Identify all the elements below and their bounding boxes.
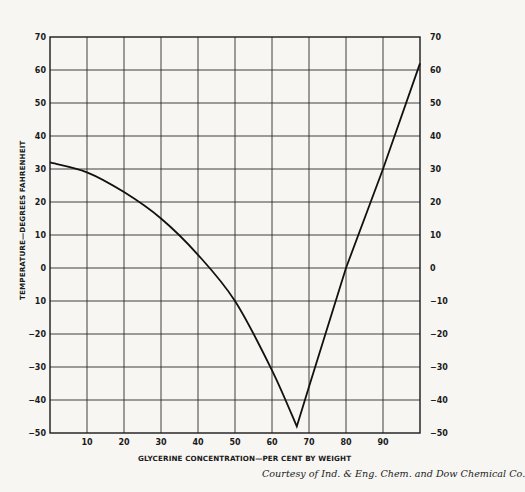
source-credit: Courtesy of Ind. & Eng. Chem. and Dow Ch… <box>262 468 525 479</box>
y-tick-label-left: 60 <box>35 66 47 75</box>
x-tick-label: 10 <box>81 438 93 447</box>
y-tick-label-left: 30 <box>35 165 47 174</box>
x-tick-label: 60 <box>266 438 278 447</box>
y-tick-label-left: −20 <box>28 330 46 339</box>
y-tick-label-right: 50 <box>430 99 442 108</box>
x-tick-label: 50 <box>229 438 241 447</box>
y-tick-label-left: 10 <box>35 297 47 306</box>
x-axis-title: GLYCERINE CONCENTRATION—PER CENT BY WEIG… <box>138 454 351 463</box>
y-tick-label-right: 10 <box>430 231 442 240</box>
x-axis-ticks: 102030405060708090 <box>81 438 389 447</box>
y-tick-label-left: 70 <box>35 33 47 42</box>
y-tick-label-right: 30 <box>430 165 442 174</box>
y-tick-label-right: −20 <box>430 330 448 339</box>
y-tick-label-left: 10 <box>35 231 47 240</box>
y-tick-label-left: 20 <box>35 198 47 207</box>
y-tick-label-left: 50 <box>35 99 47 108</box>
y-tick-label-right: −10 <box>430 297 448 306</box>
x-tick-label: 70 <box>303 438 315 447</box>
y-axis-right-ticks: 706050403020100−10−20−30−40−50 <box>430 33 448 438</box>
x-tick-label: 20 <box>118 438 130 447</box>
y-tick-label-left: 0 <box>40 264 46 273</box>
x-tick-label: 40 <box>192 438 204 447</box>
chart-grid <box>50 37 420 433</box>
x-tick-label: 30 <box>155 438 167 447</box>
y-tick-label-right: 40 <box>430 132 442 141</box>
y-tick-label-left: −50 <box>28 429 46 438</box>
y-tick-label-left: −30 <box>28 363 46 372</box>
y-tick-label-left: 40 <box>35 132 47 141</box>
y-axis-title: TEMPERATURE—DEGREES FAHRENHEIT <box>18 141 27 300</box>
x-tick-label: 90 <box>377 438 389 447</box>
y-tick-label-right: −50 <box>430 429 448 438</box>
y-tick-label-right: 60 <box>430 66 442 75</box>
y-tick-label-right: 70 <box>430 33 442 42</box>
y-tick-label-right: 0 <box>430 264 436 273</box>
y-axis-left-ticks: 70605040302010010−20−30−40−50 <box>28 33 46 438</box>
y-tick-label-right: 20 <box>430 198 442 207</box>
y-tick-label-left: −40 <box>28 396 46 405</box>
x-tick-label: 80 <box>340 438 352 447</box>
y-tick-label-right: −30 <box>430 363 448 372</box>
y-tick-label-right: −40 <box>430 396 448 405</box>
